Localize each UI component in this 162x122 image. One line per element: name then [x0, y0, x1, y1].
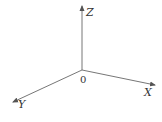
- z-axis-label: Z: [85, 6, 94, 19]
- x-axis: [82, 70, 155, 85]
- y-axis-label: Y: [18, 98, 27, 111]
- axes-svg: Z X Y 0: [0, 0, 162, 122]
- x-axis-label: X: [143, 86, 153, 99]
- origin-label: 0: [80, 74, 86, 85]
- coordinate-diagram: Z X Y 0: [0, 0, 162, 122]
